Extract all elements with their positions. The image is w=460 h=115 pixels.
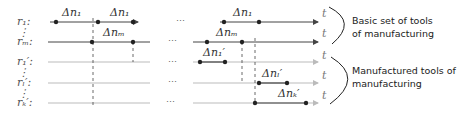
ellipsis: …: [166, 94, 175, 104]
ellipsis: …: [168, 74, 177, 84]
interval-label: Δn₁: [61, 6, 81, 19]
ellipses: … … … … …: [166, 13, 185, 104]
ellipsis: …: [168, 33, 177, 43]
point: [198, 60, 202, 64]
point: [223, 60, 227, 64]
interval-label: Δn₁: [109, 6, 129, 19]
point: [131, 20, 135, 24]
interval-label: Δnₗ′: [261, 67, 283, 80]
timeline-diagram: r₁: ⋮ rₘ: r₁′: ⋮ rₗ′: ⋮ rₖ′: Δn₁ Δn₁ Δnₘ…: [0, 0, 460, 115]
point: [257, 81, 261, 85]
point: [131, 40, 135, 44]
row-label-rm: rₘ:: [17, 35, 33, 48]
time-label: t: [322, 69, 327, 82]
point: [96, 20, 100, 24]
point: [205, 40, 209, 44]
row-label-rk-prime: rₖ′:: [17, 96, 32, 109]
group-label-basic-2: of manufacturing: [352, 28, 434, 39]
interval-label: Δnₘ: [102, 26, 125, 39]
time-label: t: [322, 27, 327, 40]
time-label: t: [322, 89, 327, 102]
ellipsis: …: [176, 13, 185, 23]
group-label-manufactured-2: manufacturing: [352, 78, 422, 89]
time-label: t: [322, 7, 327, 20]
group-label-basic-1: Basic set of tools: [352, 15, 433, 26]
interval-label: Δnₘ: [215, 26, 238, 39]
interval-label: Δn₁′: [202, 46, 225, 59]
right-section: Δn₁ Δnₘ Δn₁′ Δnₗ′ Δnₖ′ t t t t t: [193, 6, 327, 105]
interval-label: Δnₖ′: [277, 87, 300, 100]
time-label: t: [322, 49, 327, 62]
point: [54, 20, 58, 24]
row-labels: r₁: ⋮ rₘ: r₁′: ⋮ rₗ′: ⋮ rₖ′:: [17, 15, 33, 109]
point: [253, 101, 257, 105]
point: [257, 20, 261, 24]
left-section: Δn₁ Δn₁ Δnₘ: [48, 6, 150, 106]
point: [285, 81, 289, 85]
ellipsis: …: [168, 54, 177, 64]
brace-basic: [329, 7, 344, 44]
point: [222, 20, 226, 24]
interval-label: Δn₁: [232, 6, 252, 19]
point: [240, 40, 244, 44]
brace-manufactured: [330, 57, 348, 104]
group-label-manufactured-1: Manufactured tools of: [352, 65, 457, 76]
point: [90, 40, 94, 44]
point: [304, 101, 308, 105]
